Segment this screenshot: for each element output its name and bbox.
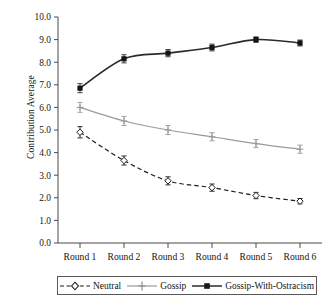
data-point-neutral <box>253 192 259 198</box>
y-axis-tick-label: 4.0 <box>39 148 51 158</box>
y-axis-tick-label: 5.0 <box>39 125 51 135</box>
legend-label-gossip-with-ostracism: Gossip-With-Ostracism <box>225 281 314 291</box>
series-line-gossip <box>80 107 300 149</box>
chart-legend: Neutral Gossip Gossip-With-Ostracism <box>57 276 317 295</box>
chart-figure: Contribution Average 10.09.08.07.06.05.0… <box>0 0 330 306</box>
data-point-neutral <box>297 198 303 204</box>
data-point-neutral <box>77 129 83 135</box>
y-axis-tick-label: 6.0 <box>39 103 51 113</box>
legend-label-gossip: Gossip <box>160 281 186 291</box>
plot-area: 10.09.08.07.06.05.04.03.02.01.00.0Round … <box>0 0 330 306</box>
legend-key-neutral-icon <box>60 280 90 292</box>
data-point-neutral <box>165 178 171 184</box>
y-axis-tick-label: 10.0 <box>35 12 52 22</box>
legend-item-gossip[interactable]: Gossip <box>124 280 189 292</box>
x-axis-tick-label: Round 4 <box>196 251 229 262</box>
y-axis-tick-label: 7.0 <box>39 80 51 90</box>
x-axis-tick-label: Round 3 <box>152 251 185 262</box>
x-axis-tick-label: Round 6 <box>284 251 317 262</box>
data-point-neutral <box>209 184 215 190</box>
x-axis-tick-label: Round 5 <box>240 251 273 262</box>
legend-item-neutral[interactable]: Neutral <box>57 280 124 292</box>
y-axis-tick-label: 0.0 <box>39 238 51 248</box>
y-axis-tick-label: 8.0 <box>39 58 51 68</box>
series-line-gossip-with-ostracism <box>80 39 300 88</box>
data-point-gossip-with-ostracism <box>253 37 258 42</box>
data-point-gossip-with-ostracism <box>209 45 214 50</box>
legend-label-neutral: Neutral <box>93 281 121 291</box>
series-line-neutral <box>80 132 300 201</box>
data-point-gossip-with-ostracism <box>121 56 126 61</box>
legend-item-gossip-with-ostracism[interactable]: Gossip-With-Ostracism <box>189 280 317 292</box>
y-axis-tick-label: 2.0 <box>39 193 51 203</box>
legend-key-gossip-icon <box>127 280 157 292</box>
y-axis-tick-label: 3.0 <box>39 171 51 181</box>
y-axis-tick-label: 1.0 <box>39 216 51 226</box>
x-axis-tick-label: Round 2 <box>108 251 141 262</box>
data-point-gossip-with-ostracism <box>297 40 302 45</box>
data-point-gossip-with-ostracism <box>77 86 82 91</box>
legend-key-gossip-with-ostracism-icon <box>192 280 222 292</box>
data-point-neutral <box>121 157 127 163</box>
y-axis-tick-label: 9.0 <box>39 35 51 45</box>
data-point-gossip-with-ostracism <box>165 51 170 56</box>
x-axis-tick-label: Round 1 <box>64 251 97 262</box>
